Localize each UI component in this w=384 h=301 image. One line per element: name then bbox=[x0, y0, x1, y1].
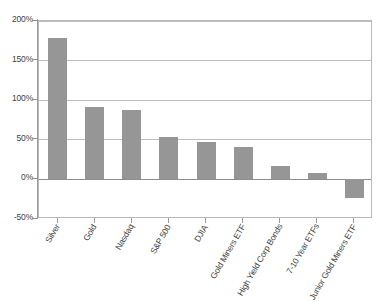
x-tick-label: Nasdaq bbox=[114, 223, 136, 252]
bar bbox=[271, 166, 290, 179]
x-tick-label: Junior Gold Miners ETF bbox=[308, 223, 358, 301]
x-tick-mark bbox=[316, 218, 317, 223]
y-tick-mark bbox=[32, 178, 38, 179]
x-tick-label: 7-10 Year ETFs bbox=[285, 223, 321, 276]
bar bbox=[345, 179, 364, 197]
y-tick-label: 150% bbox=[0, 55, 33, 64]
y-tick-mark bbox=[32, 99, 38, 100]
x-tick-label: Silver bbox=[44, 223, 62, 245]
plot-area bbox=[38, 20, 372, 218]
x-tick-mark bbox=[168, 218, 169, 223]
bar bbox=[85, 107, 104, 179]
y-tick-mark bbox=[32, 59, 38, 60]
x-tick-mark bbox=[279, 218, 280, 223]
y-tick-label: 200% bbox=[0, 15, 33, 24]
y-tick-label: 50% bbox=[0, 134, 33, 143]
bar bbox=[122, 110, 141, 180]
x-tick-mark bbox=[94, 218, 95, 223]
bar bbox=[308, 173, 327, 179]
x-tick-label: Gold bbox=[82, 223, 98, 242]
y-tick-label: 0% bbox=[0, 173, 33, 182]
y-tick-mark bbox=[32, 218, 38, 219]
bar bbox=[197, 142, 216, 179]
y-tick-mark bbox=[32, 20, 38, 21]
gridline bbox=[39, 100, 371, 101]
bar bbox=[159, 137, 178, 180]
y-tick-mark bbox=[32, 138, 38, 139]
x-tick-mark bbox=[205, 218, 206, 223]
x-tick-mark bbox=[131, 218, 132, 223]
y-tick-label: 100% bbox=[0, 94, 33, 103]
gridline bbox=[39, 60, 371, 61]
x-tick-mark bbox=[242, 218, 243, 223]
x-tick-label: DJIA bbox=[193, 223, 210, 243]
bar bbox=[234, 147, 253, 179]
y-tick-label: -50% bbox=[0, 213, 33, 222]
x-tick-label: Gold Miners ETF bbox=[209, 223, 247, 281]
y-axis-tick-labels: -50%0%50%100%150%200% bbox=[0, 0, 33, 278]
gridline bbox=[39, 21, 371, 22]
x-tick-label: S&P 500 bbox=[149, 223, 173, 255]
x-tick-mark bbox=[353, 218, 354, 223]
x-tick-mark bbox=[57, 218, 58, 223]
bar bbox=[48, 38, 67, 180]
x-tick-label: High Yield Corp Bonds bbox=[236, 223, 284, 298]
